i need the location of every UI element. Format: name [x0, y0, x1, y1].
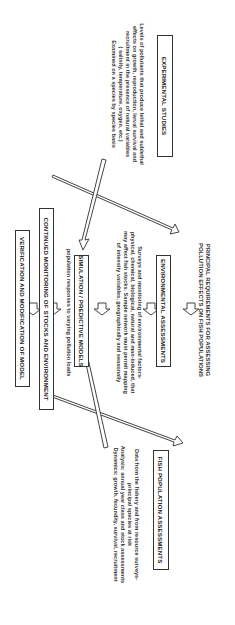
verification-box: VERIFICATION AND MODIFICATION OF MODEL — [15, 230, 30, 387]
experimental-studies-box: EXPERIMENTAL STUDIES — [157, 35, 173, 157]
diagram-canvas: PRINCIPAL REQUIREMENTS FOR ASSESSING POL… — [0, 0, 235, 625]
simulation-description: population responses to varying pollutio… — [65, 225, 72, 400]
fish-description: Data from the fishery and from resource … — [112, 432, 140, 597]
continued-monitoring-box: CONTINUED MONITORING OF STOCKS AND ENVIR… — [39, 208, 54, 410]
environmental-description: Surveys and monitoring of environmental … — [115, 215, 143, 410]
chevron-survey-to-sim — [94, 303, 110, 315]
experimental-description: Levels of pollutants that produce lethal… — [110, 14, 145, 174]
arrow-exp-to-sim — [79, 159, 106, 250]
fish-population-assessments-box: FISH POPULATION ASSESSMENTS — [153, 450, 169, 570]
diagram-title: PRINCIPAL REQUIREMENTS FOR ASSESSING POL… — [197, 220, 211, 400]
simulation-models-box: SIMULATION / PREDICTIVE MODELS — [74, 255, 89, 367]
environmental-assessments-box: ENVIRONMENTAL ASSESSMENTS — [156, 255, 171, 367]
